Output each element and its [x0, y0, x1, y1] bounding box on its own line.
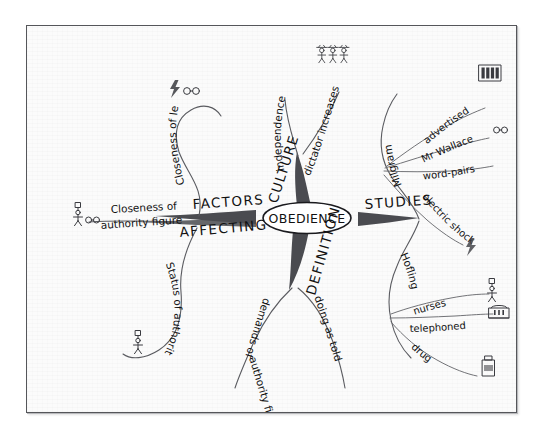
telephone-icon	[489, 305, 509, 318]
poster-frame: OBEDIENCE FACTORS AFFECTING STUDIES CULT…	[26, 25, 517, 413]
sublabel-milgram: Milgram	[381, 144, 403, 189]
three-people-icon	[317, 45, 349, 62]
sublabel-closeness-of-learner: Closeness of learner	[27, 26, 186, 187]
sublabel-word-pairs: word-pairs	[422, 163, 476, 182]
sublabel-drug: drug	[409, 341, 434, 364]
glasses-icon-learner	[184, 88, 200, 95]
glasses-icon-wallace	[494, 127, 508, 133]
lightning-icon-learner	[170, 80, 180, 98]
sublabel-demands-of-authority-2: authority figure	[247, 355, 282, 412]
sublabel-telephoned: telephoned	[410, 320, 467, 334]
newspaper-icon	[479, 65, 501, 81]
sublabel-status-of-authority-figure: Status of authority figure	[27, 26, 185, 357]
branch-label-factors: FACTORS	[192, 191, 265, 212]
sublabel-closeness-of-authority-2: authority figure	[100, 213, 182, 231]
person-icon-nurse	[488, 279, 497, 302]
sublabel-dictator-increases: dictator increases	[301, 84, 342, 177]
sublabel-hofling: Hofling	[398, 251, 421, 291]
twigs-studies	[381, 94, 419, 358]
branch-label-affecting: AFFECTING	[179, 216, 268, 240]
main-branch-studies[interactable]	[358, 212, 419, 226]
drug-bottle-icon	[483, 356, 495, 376]
sublabel-closeness-of-authority: Closeness of	[110, 200, 177, 215]
branch-label-studies: STUDIES	[364, 191, 433, 212]
person-icon-authority	[74, 203, 83, 226]
person-icon-status	[134, 331, 143, 354]
mindmap-canvas: OBEDIENCE FACTORS AFFECTING STUDIES CULT…	[0, 0, 549, 445]
sublabel-demands-of-authority: demands of	[243, 297, 273, 360]
sublabel-doing-as-told: doing as told	[312, 294, 345, 363]
sublabel-electric-shock: electric shock	[420, 191, 477, 246]
sublabel-nurses: nurses	[412, 297, 447, 317]
mindmap-drawing: OBEDIENCE FACTORS AFFECTING STUDIES CULT…	[27, 26, 516, 412]
